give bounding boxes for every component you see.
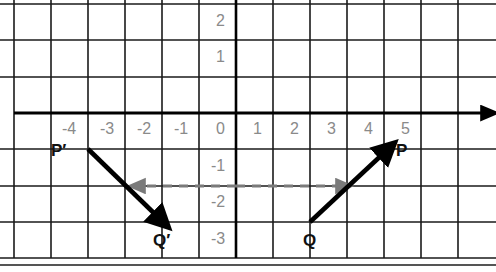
x-tick-label-neg2: -2 bbox=[137, 121, 151, 137]
y-tick-label-neg3: -3 bbox=[211, 231, 225, 247]
label-Q-prime: Q′ bbox=[153, 232, 170, 249]
x-tick-label-1: 1 bbox=[253, 121, 262, 137]
x-tick-label-2: 2 bbox=[290, 121, 299, 137]
x-tick-label-neg1: -1 bbox=[174, 121, 188, 137]
x-tick-label-3: 3 bbox=[327, 121, 336, 137]
x-tick-label-0: 0 bbox=[216, 121, 225, 137]
x-tick-label-5: 5 bbox=[401, 121, 410, 137]
label-P: P bbox=[396, 142, 407, 159]
x-tick-label-neg3: -3 bbox=[100, 121, 114, 137]
y-tick-label-1: 1 bbox=[216, 49, 225, 65]
y-tick-label-neg2: -2 bbox=[211, 194, 225, 210]
label-P-prime: P′ bbox=[51, 142, 66, 159]
segment-P-prime-Q-prime bbox=[88, 149, 160, 219]
y-tick-label-2: 2 bbox=[216, 13, 225, 29]
label-Q: Q bbox=[303, 232, 316, 249]
y-tick-label-neg1: -1 bbox=[211, 158, 225, 174]
x-tick-label-neg4: -4 bbox=[62, 121, 76, 137]
x-tick-label-4: 4 bbox=[364, 121, 373, 137]
coordinate-plane-figure: -4 -3 -2 -1 0 1 2 3 4 5 2 1 -1 -2 -3 P′ … bbox=[0, 0, 496, 272]
